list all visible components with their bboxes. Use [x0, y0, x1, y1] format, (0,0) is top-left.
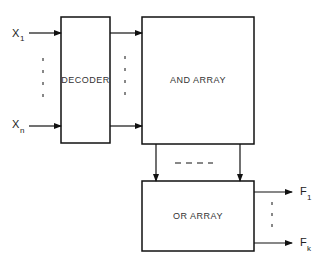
input-label-x1: X 1 [12, 27, 25, 43]
svg-text:X: X [12, 118, 20, 130]
svg-text:X: X [12, 27, 20, 39]
and-array-block: AND ARRAY [142, 17, 254, 144]
output-label-fk: F k [300, 236, 312, 253]
or-array-block: OR ARRAY [142, 181, 254, 251]
decoder-to-and-arrows [110, 33, 142, 126]
and-to-or-arrows [156, 144, 240, 181]
pla-block-diagram: DECODER AND ARRAY OR ARRAY X 1 X n [0, 0, 320, 268]
input-arrows [29, 33, 61, 126]
decoder-label: DECODER [61, 75, 110, 85]
svg-text:F: F [300, 236, 307, 248]
output-label-f1: F 1 [300, 185, 312, 202]
and-array-label: AND ARRAY [170, 75, 226, 85]
svg-text:F: F [300, 185, 307, 197]
decoder-block: DECODER [61, 17, 110, 143]
output-arrows [254, 192, 292, 243]
svg-text:k: k [307, 244, 312, 253]
svg-text:1: 1 [20, 34, 25, 43]
svg-text:n: n [20, 126, 24, 135]
svg-text:1: 1 [307, 193, 312, 202]
or-array-label: OR ARRAY [173, 211, 223, 221]
input-label-xn: X n [12, 118, 24, 135]
